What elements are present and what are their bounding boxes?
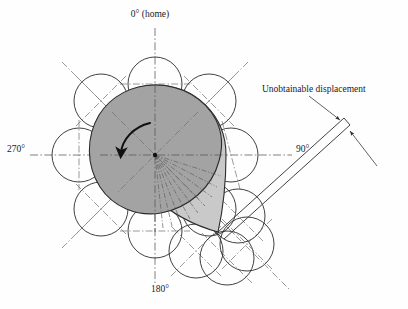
band-edge-upper (218, 118, 344, 232)
workspace-circle (200, 231, 254, 285)
workspace-circle (169, 224, 223, 278)
unobtainable-band (218, 118, 350, 239)
label-home: 0° (home) (131, 9, 169, 20)
leader-upper (309, 96, 340, 120)
label-270: 270° (7, 144, 25, 154)
rotary-actuator-diagram: 0° (home) 90° 180° 270° Unobtainable dis… (0, 0, 408, 309)
label-unobtainable-displacement: Unobtainable displacement (262, 84, 366, 94)
leader-lower (350, 131, 377, 166)
label-90: 90° (296, 144, 310, 154)
origin-point (153, 153, 157, 157)
band-edge-lower (224, 125, 350, 239)
band-cap (344, 118, 350, 125)
label-180: 180° (151, 284, 169, 294)
figure-root: 0° (home) 90° 180° 270° Unobtainable dis… (0, 0, 408, 309)
